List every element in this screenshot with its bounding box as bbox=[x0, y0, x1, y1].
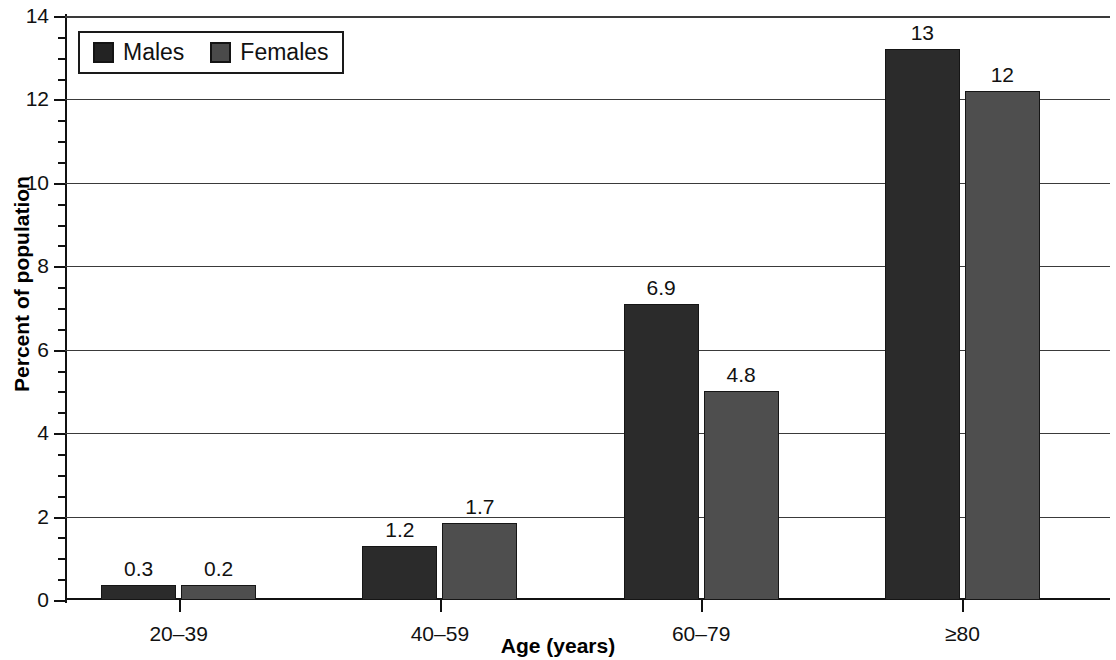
y-axis-tick-major bbox=[54, 16, 65, 18]
y-axis-tick-minor bbox=[58, 391, 65, 393]
y-axis-tick-label: 2 bbox=[37, 505, 49, 529]
legend-label-males: Males bbox=[123, 39, 184, 66]
y-axis-tick-minor bbox=[58, 329, 65, 331]
y-axis-tick-minor bbox=[58, 79, 65, 81]
x-axis-title: Age (years) bbox=[0, 634, 1116, 658]
x-axis-tick bbox=[440, 600, 442, 612]
y-axis-tick-minor bbox=[58, 287, 65, 289]
y-axis-tick-minor bbox=[58, 475, 65, 477]
bar-value-label: 13 bbox=[911, 21, 934, 45]
bar-value-label: 6.9 bbox=[647, 276, 676, 300]
bar-value-label: 1.2 bbox=[385, 518, 414, 542]
gridline bbox=[65, 16, 1110, 18]
y-axis-tick-minor bbox=[58, 496, 65, 498]
y-axis-tick-label: 0 bbox=[37, 588, 49, 612]
y-axis-tick-major bbox=[54, 266, 65, 268]
y-axis-tick-minor bbox=[58, 412, 65, 414]
y-axis-tick-major bbox=[54, 183, 65, 185]
bar-females-60–79: 4.8 bbox=[704, 391, 779, 600]
bar-males-60–79: 6.9 bbox=[624, 304, 699, 600]
y-axis-tick-label: 14 bbox=[26, 4, 49, 28]
legend-swatch-females-icon bbox=[210, 42, 231, 63]
y-axis-tick-minor bbox=[58, 37, 65, 39]
x-axis-tick bbox=[179, 600, 181, 612]
y-axis-tick-label: 6 bbox=[37, 338, 49, 362]
bar-females-40–59: 1.7 bbox=[442, 523, 517, 600]
y-axis-tick-major bbox=[54, 350, 65, 352]
y-axis-tick-minor bbox=[58, 454, 65, 456]
y-axis-tick-minor bbox=[58, 120, 65, 122]
y-axis-tick-major bbox=[54, 600, 65, 602]
bar-value-label: 0.3 bbox=[124, 557, 153, 581]
y-axis-tick-minor bbox=[58, 162, 65, 164]
bar-males-20–39: 0.3 bbox=[101, 585, 176, 600]
y-axis-tick-label: 4 bbox=[37, 421, 49, 445]
bar-value-label: 1.7 bbox=[465, 495, 494, 519]
chart-legend: Males Females bbox=[78, 31, 344, 74]
y-axis-tick-minor bbox=[58, 58, 65, 60]
y-axis-tick-minor bbox=[58, 245, 65, 247]
legend-entry-males: Males bbox=[93, 39, 184, 66]
y-axis-tick-minor bbox=[58, 225, 65, 227]
bar-value-label: 0.2 bbox=[204, 557, 233, 581]
y-axis-tick-minor bbox=[58, 308, 65, 310]
legend-label-females: Females bbox=[240, 39, 328, 66]
y-axis-tick-major bbox=[54, 517, 65, 519]
y-axis-tick-minor bbox=[58, 579, 65, 581]
bar-value-label: 4.8 bbox=[727, 363, 756, 387]
legend-entry-females: Females bbox=[210, 39, 328, 66]
bar-males-≥80: 13 bbox=[885, 49, 960, 600]
plot-area: 024681012140.30.220–391.21.740–596.94.86… bbox=[65, 16, 1110, 600]
y-axis-tick-minor bbox=[58, 371, 65, 373]
bar-males-40–59: 1.2 bbox=[362, 546, 437, 600]
bar-females-≥80: 12 bbox=[965, 91, 1040, 600]
y-axis-tick-minor bbox=[58, 537, 65, 539]
y-axis-tick-minor bbox=[58, 141, 65, 143]
y-axis-tick-major bbox=[54, 433, 65, 435]
y-axis-tick-minor bbox=[58, 204, 65, 206]
x-axis-tick bbox=[701, 600, 703, 612]
y-axis-tick-major bbox=[54, 99, 65, 101]
y-axis-title: Percent of population bbox=[10, 94, 34, 474]
bar-value-label: 12 bbox=[991, 63, 1014, 87]
bar-females-20–39: 0.2 bbox=[181, 585, 256, 600]
legend-swatch-males-icon bbox=[93, 42, 114, 63]
y-axis-tick-label: 8 bbox=[37, 254, 49, 278]
x-axis-tick bbox=[962, 600, 964, 612]
bar-chart-figure: 024681012140.30.220–391.21.740–596.94.86… bbox=[0, 0, 1116, 660]
y-axis-tick-minor bbox=[58, 558, 65, 560]
